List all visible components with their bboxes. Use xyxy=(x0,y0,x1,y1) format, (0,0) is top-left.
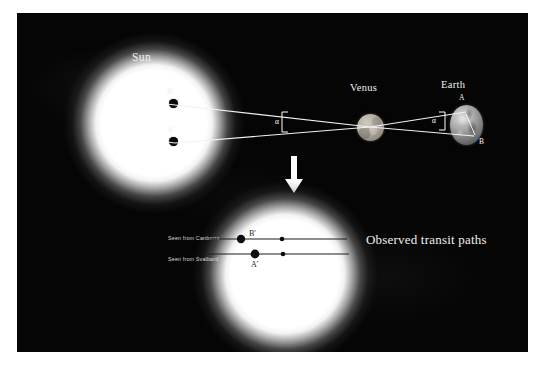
observed-transit-paths-heading: Observed transit paths xyxy=(366,232,487,248)
transit-dot-canberra-secondary xyxy=(280,237,285,242)
illustration-panel: Sun B' A' Venus Earth A B α xyxy=(17,13,528,352)
transit-dot-svalbard-secondary xyxy=(281,252,286,257)
transit-path-b-prime-label: B' xyxy=(249,229,256,238)
transit-dot-canberra-venus xyxy=(237,235,245,243)
transit-dot-svalbard-venus xyxy=(251,250,260,259)
transit-paths-group xyxy=(17,13,528,352)
figure-canvas: Sun B' A' Venus Earth A B α xyxy=(0,0,545,366)
transit-path-a-prime-label: A' xyxy=(251,260,258,269)
